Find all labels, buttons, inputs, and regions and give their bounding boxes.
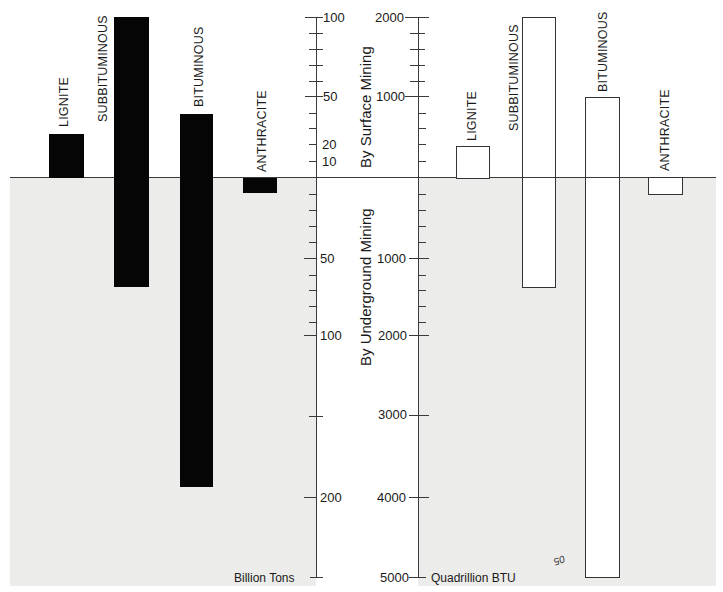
right-tick xyxy=(418,306,426,307)
right-tick-u4000 xyxy=(409,497,429,498)
left-tick-100 xyxy=(305,17,323,18)
left-label-u200: 200 xyxy=(320,491,342,504)
label-bituminous-right: BITUMINOUS xyxy=(597,12,610,92)
left-tick xyxy=(309,226,317,227)
underground-shade-right xyxy=(418,178,716,586)
label-lignite-right: LIGNITE xyxy=(466,91,479,141)
right-label-u3000: 3000 xyxy=(378,408,407,421)
title-underground-mining: By Underground Mining xyxy=(358,208,373,366)
left-tick xyxy=(309,275,317,276)
left-tick xyxy=(309,81,323,82)
right-label-u2000: 2000 xyxy=(378,329,407,342)
left-tick-u50 xyxy=(304,258,317,259)
left-label-20: 20 xyxy=(322,138,336,151)
right-tick xyxy=(418,275,426,276)
left-tick xyxy=(309,113,317,114)
right-tick xyxy=(418,226,426,227)
bar-lignite-surface-tons xyxy=(49,134,84,178)
right-tick-u3000 xyxy=(409,415,429,416)
left-tick-20 xyxy=(309,144,317,145)
left-tick xyxy=(309,290,317,291)
right-tick xyxy=(410,81,425,82)
left-tick xyxy=(309,128,317,129)
left-tick-u150 xyxy=(309,416,323,417)
right-tick xyxy=(418,144,426,145)
left-label-10: 10 xyxy=(322,155,336,168)
subbituminous-baseline-crossing xyxy=(523,177,555,178)
left-tick-10 xyxy=(309,161,317,162)
right-tick xyxy=(418,242,426,243)
right-label-u1000: 1000 xyxy=(377,252,406,265)
right-tick xyxy=(410,33,425,34)
bar-anthracite-underground-btu xyxy=(648,177,683,195)
right-tick xyxy=(418,161,426,162)
right-tick-2000 xyxy=(405,17,429,18)
left-tick xyxy=(309,65,323,66)
left-tick xyxy=(309,322,317,323)
label-bituminous-left: BITUMINOUS xyxy=(193,27,206,107)
right-tick-u5000 xyxy=(409,577,426,578)
bar-bituminous-surface-tons xyxy=(180,114,213,178)
left-tick xyxy=(309,33,323,34)
left-tick-50 xyxy=(305,96,323,97)
right-tick xyxy=(418,128,426,129)
right-label-1000: 1000 xyxy=(376,90,405,103)
bar-subbituminous-surface-tons xyxy=(114,17,149,178)
left-unit-label: Billion Tons xyxy=(234,572,294,585)
bar-subbituminous-underground-tons xyxy=(114,178,149,287)
left-tick xyxy=(309,242,317,243)
left-tick xyxy=(309,210,317,211)
right-tick xyxy=(418,290,426,291)
left-tick-u200 xyxy=(304,497,317,498)
right-tick-u2000 xyxy=(409,335,429,336)
left-label-50: 50 xyxy=(323,90,337,103)
left-axis-line xyxy=(316,17,317,578)
left-tick xyxy=(309,194,317,195)
right-tick-u1000 xyxy=(409,258,429,259)
label-subbituminous-right: SUBBITUMINOUS xyxy=(508,24,521,131)
right-label-u4000: 4000 xyxy=(377,491,406,504)
left-label-u100: 100 xyxy=(320,329,342,342)
label-anthracite-left: ANTHRACITE xyxy=(256,90,269,172)
bar-lignite-surface-btu xyxy=(456,146,490,179)
bar-bituminous-btu xyxy=(585,97,620,578)
bar-subbituminous-btu xyxy=(522,17,556,288)
bituminous-baseline-crossing xyxy=(586,177,619,178)
label-subbituminous-left: SUBBITUMINOUS xyxy=(97,15,110,122)
right-unit-label: Quadrillion BTU xyxy=(431,572,516,585)
bar-bituminous-underground-tons xyxy=(180,178,213,487)
bar-anthracite-underground-tons xyxy=(243,178,277,193)
right-label-u5000: 5000 xyxy=(380,571,409,584)
right-tick xyxy=(418,194,426,195)
label-lignite-left: LIGNITE xyxy=(58,77,71,127)
right-axis-line xyxy=(418,17,419,578)
left-label-100: 100 xyxy=(323,11,345,24)
right-tick xyxy=(418,322,426,323)
left-tick xyxy=(309,306,317,307)
label-anthracite-right: ANTHRACITE xyxy=(659,89,672,171)
right-tick-1000 xyxy=(405,96,429,97)
left-tick-u100 xyxy=(304,335,317,336)
underground-shade-left xyxy=(10,178,316,586)
right-tick xyxy=(418,210,426,211)
title-surface-mining: By Surface Mining xyxy=(358,46,373,168)
right-tick xyxy=(410,65,425,66)
left-label-u50: 50 xyxy=(320,252,334,265)
right-tick xyxy=(418,113,426,114)
right-tick xyxy=(410,49,425,50)
left-tick-end xyxy=(310,577,323,578)
right-label-2000: 2000 xyxy=(375,11,404,24)
left-tick xyxy=(309,49,323,50)
